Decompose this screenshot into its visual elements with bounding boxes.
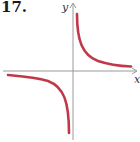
curve-branch-quadrant-3 — [8, 75, 69, 133]
x-axis-label: x — [134, 73, 140, 86]
curve-branch-quadrant-1 — [77, 14, 131, 67]
hyperbola-graph: y x — [0, 0, 140, 142]
y-axis-label: y — [61, 1, 69, 14]
